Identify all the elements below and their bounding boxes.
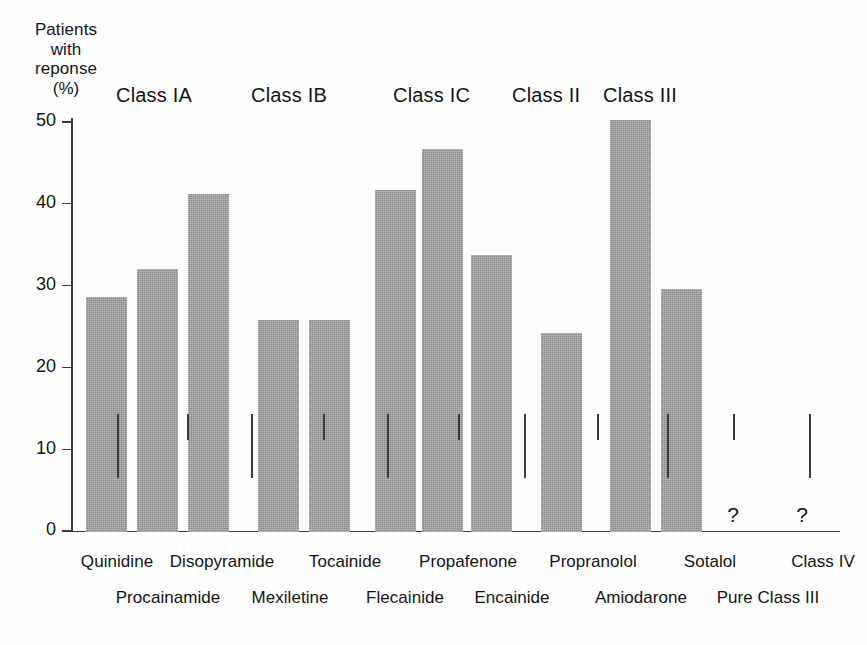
bar-tocainide bbox=[309, 320, 350, 533]
bar-sotalol bbox=[661, 289, 702, 532]
x-axis-tick-6 bbox=[458, 414, 460, 440]
bar-disopyramide bbox=[188, 194, 229, 532]
x-axis-label-procainamide: Procainamide bbox=[116, 588, 221, 607]
y-axis-tick-30: 30 bbox=[62, 285, 71, 287]
x-axis-label-mexiletine: Mexiletine bbox=[251, 588, 328, 607]
y-axis-title-line-4: (%) bbox=[14, 79, 118, 99]
x-axis-label-flecainide: Flecainide bbox=[366, 588, 444, 607]
y-axis-title-line-1: Patients bbox=[14, 20, 118, 40]
bar-chart-figure: Patients with reponse (%) Class IAClass … bbox=[0, 0, 867, 645]
y-axis-tick-10: 10 bbox=[62, 449, 71, 451]
x-axis-label-class-iv: Class IV bbox=[791, 552, 855, 571]
bar-encainide bbox=[471, 255, 512, 533]
class-header-class-ii: Class II bbox=[512, 84, 580, 106]
x-axis-label-amiodarone: Amiodarone bbox=[595, 588, 687, 607]
y-axis-title-line-2: with bbox=[14, 40, 118, 60]
bar-procainamide bbox=[137, 269, 178, 533]
x-axis-label-disopyramide: Disopyramide bbox=[170, 552, 275, 571]
y-axis-tick-label-50: 50 bbox=[36, 110, 56, 130]
x-axis-tick-9 bbox=[667, 414, 669, 478]
y-axis-tick-20: 20 bbox=[62, 367, 71, 369]
y-axis-title-line-3: reponse bbox=[14, 59, 118, 79]
y-axis-tick-label-20: 20 bbox=[36, 356, 56, 376]
plot-area: 50403020100 ?? bbox=[71, 118, 840, 534]
x-axis-label-propafenone: Propafenone bbox=[419, 552, 517, 571]
x-axis-label-tocainide: Tocainide bbox=[309, 552, 381, 571]
bar-propranolol bbox=[541, 333, 582, 532]
y-axis-tick-label-0: 0 bbox=[46, 519, 56, 539]
x-axis-label-pure-class-iii: Pure Class III bbox=[717, 588, 820, 607]
x-axis-label-sotalol: Sotalol bbox=[684, 552, 736, 571]
y-axis-tick-40: 40 bbox=[62, 203, 71, 205]
no-data-question-mark-1: ? bbox=[727, 504, 739, 526]
x-axis-label-quinidine: Quinidine bbox=[81, 552, 153, 571]
class-header-class-ic: Class IC bbox=[393, 84, 470, 106]
bar-amiodarone bbox=[610, 120, 651, 533]
x-axis-tick-4 bbox=[323, 414, 325, 440]
x-axis-tick-3 bbox=[251, 414, 253, 478]
x-axis-tick-2 bbox=[187, 414, 189, 440]
class-header-class-ib: Class IB bbox=[251, 84, 327, 106]
y-axis-tick-50: 50 bbox=[62, 121, 71, 123]
y-axis-tick-label-10: 10 bbox=[36, 438, 56, 458]
bar-propafenone bbox=[422, 149, 463, 532]
x-axis-label-encainide: Encainide bbox=[474, 588, 549, 607]
x-axis-tick-1 bbox=[117, 414, 119, 478]
class-header-class-iii: Class III bbox=[603, 84, 677, 106]
x-axis-tick-7 bbox=[524, 414, 526, 478]
y-axis-tick-label-30: 30 bbox=[36, 274, 56, 294]
y-axis-title: Patients with reponse (%) bbox=[14, 20, 118, 98]
y-axis-tick-label-40: 40 bbox=[36, 192, 56, 212]
class-header-class-ia: Class IA bbox=[116, 84, 192, 106]
x-axis-tick-11 bbox=[809, 414, 811, 478]
x-axis-label-propranolol: Propranolol bbox=[549, 552, 637, 571]
bar-mexiletine bbox=[258, 320, 299, 533]
x-axis-tick-8 bbox=[597, 414, 599, 440]
x-axis-tick-5 bbox=[387, 414, 389, 478]
bar-quinidine bbox=[86, 297, 127, 533]
bar-flecainide bbox=[375, 190, 416, 532]
y-axis-line bbox=[71, 118, 73, 532]
x-axis-tick-10 bbox=[733, 414, 735, 440]
no-data-question-mark-2: ? bbox=[796, 504, 808, 526]
y-axis-tick-0: 0 bbox=[62, 530, 71, 532]
